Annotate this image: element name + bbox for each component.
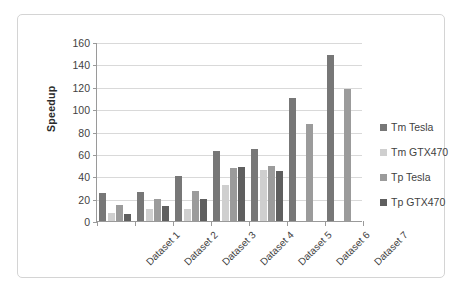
y-axis-title: Speedup [45, 86, 57, 132]
x-tick-label: Dataset 5 [297, 230, 334, 267]
bar [200, 199, 207, 221]
x-tick-mark [173, 221, 174, 226]
y-tick-label: 160 [72, 38, 90, 49]
bar [162, 206, 169, 221]
chart-frame: Speedup 020406080100120140160 Dataset 1D… [17, 14, 445, 278]
bar [175, 176, 182, 221]
bar [289, 98, 296, 221]
legend-swatch-icon [380, 199, 387, 206]
legend-swatch-icon [380, 174, 387, 181]
bar [213, 151, 220, 221]
x-tick-mark [325, 221, 326, 226]
x-tick-mark [287, 221, 288, 226]
y-tick-label: 80 [78, 127, 90, 138]
x-tick-label: Dataset 2 [183, 230, 220, 267]
chart-legend: Tm TeslaTm GTX470Tp TeslaTp GTX470 [380, 115, 460, 215]
legend-label: Tp Tesla [391, 172, 431, 183]
y-tick-label: 120 [72, 83, 90, 94]
y-tick-label: 20 [78, 194, 90, 205]
x-tick-mark [97, 221, 98, 226]
x-tick-mark [211, 221, 212, 226]
bar [276, 171, 283, 221]
x-tick-mark [135, 221, 136, 226]
legend-item[interactable]: Tp GTX470 [380, 190, 460, 215]
x-tick-label: Dataset 4 [259, 230, 296, 267]
bar-group [249, 43, 287, 221]
bar-group [173, 43, 211, 221]
x-tick-label: Dataset 3 [221, 230, 258, 267]
legend-item[interactable]: Tm GTX470 [380, 140, 460, 165]
bar-group [135, 43, 173, 221]
bar [99, 193, 106, 221]
plot-area: 020406080100120140160 Dataset 1Dataset 2… [96, 43, 362, 222]
y-tick-label: 0 [84, 217, 90, 228]
bar [108, 213, 115, 221]
legend-label: Tm GTX470 [391, 147, 448, 158]
y-tick-label: 140 [72, 60, 90, 71]
bar [230, 168, 237, 221]
bar [184, 209, 191, 221]
x-tick-mark [249, 221, 250, 226]
bar [124, 214, 131, 221]
bar [137, 192, 144, 221]
legend-swatch-icon [380, 149, 387, 156]
bar [238, 167, 245, 221]
bar-group [287, 43, 325, 221]
x-tick-mark [363, 221, 364, 226]
bar [268, 166, 275, 221]
bar [116, 205, 123, 221]
legend-swatch-icon [380, 124, 387, 131]
bar-group [97, 43, 135, 221]
bar [192, 191, 199, 221]
bar [154, 199, 161, 221]
bar [306, 124, 313, 221]
bar [251, 149, 258, 221]
legend-label: Tm Tesla [391, 122, 433, 133]
bar [327, 55, 334, 221]
bar [222, 185, 229, 221]
bar-group [211, 43, 249, 221]
y-tick-label: 100 [72, 105, 90, 116]
y-tick-label: 60 [78, 150, 90, 161]
legend-item[interactable]: Tp Tesla [380, 165, 460, 190]
bar-group [325, 43, 363, 221]
x-tick-label: Dataset 7 [373, 230, 410, 267]
legend-item[interactable]: Tm Tesla [380, 115, 460, 140]
bar [344, 89, 351, 221]
bar [260, 170, 267, 221]
x-tick-label: Dataset 1 [145, 230, 182, 267]
legend-label: Tp GTX470 [391, 197, 445, 208]
x-tick-label: Dataset 6 [335, 230, 372, 267]
y-tick-label: 40 [78, 172, 90, 183]
bar [146, 209, 153, 221]
